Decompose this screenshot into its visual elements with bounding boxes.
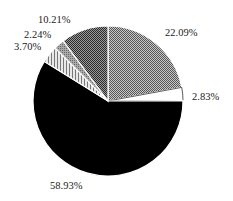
slice-label: 2.83% [192,91,219,102]
slice-label: 3.70% [14,41,41,52]
slice-label: 2.24% [24,29,51,40]
pie-slices [33,26,183,176]
pie-chart: 22.09%2.83%58.93%3.70%2.24%10.21% [0,0,233,201]
slice-label: 22.09% [165,27,198,38]
slice-label: 10.21% [38,14,71,25]
slice-label: 58.93% [50,180,83,191]
